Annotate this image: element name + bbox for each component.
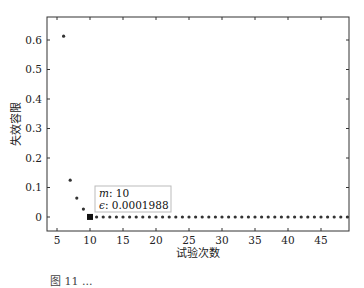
data-point <box>293 215 296 218</box>
x-tick-label: 35 <box>248 234 261 246</box>
data-point <box>273 215 276 218</box>
data-point <box>95 215 98 218</box>
data-point <box>339 215 342 218</box>
data-point <box>121 215 124 218</box>
datatip-eps-value: 0.0001988 <box>112 199 169 211</box>
data-point <box>141 215 144 218</box>
highlighted-point[interactable] <box>87 214 93 220</box>
data-point <box>326 215 329 218</box>
data-point <box>260 215 263 218</box>
y-tick-label: 0.2 <box>25 152 42 164</box>
y-tick-label: 0.1 <box>25 181 42 193</box>
data-point <box>194 215 197 218</box>
data-point <box>181 215 184 218</box>
data-point <box>214 215 217 218</box>
datatip-m-value: 10 <box>116 187 129 199</box>
data-point <box>306 215 309 218</box>
data-point <box>286 215 289 218</box>
data-point <box>267 215 270 218</box>
data-point <box>207 215 210 218</box>
data-point <box>75 197 78 200</box>
data-point <box>247 215 250 218</box>
y-tick-label: 0.3 <box>25 122 42 134</box>
svg-text:m: 10: m: 10 <box>99 187 129 199</box>
data-point <box>161 215 164 218</box>
x-axis-label: 试验次数 <box>176 246 220 260</box>
data-point <box>227 215 230 218</box>
y-tick-label: 0 <box>35 211 42 223</box>
data-point <box>240 215 243 218</box>
x-tick-label: 20 <box>149 234 162 246</box>
data-point <box>333 215 336 218</box>
x-tick-label: 5 <box>54 234 61 246</box>
data-point <box>135 215 138 218</box>
data-point <box>62 35 65 38</box>
data-point <box>115 215 118 218</box>
y-tick-label: 0.6 <box>25 34 42 46</box>
y-axis-label: 失效容限 <box>9 102 23 146</box>
datatip: m: 10 ϵ: 0.0001988 <box>95 186 171 212</box>
data-point <box>253 215 256 218</box>
svg-text:ϵ: 0.0001988: ϵ: 0.0001988 <box>99 199 169 211</box>
data-point <box>69 179 72 182</box>
x-tick-label: 25 <box>182 234 195 246</box>
x-tick-label: 40 <box>281 234 294 246</box>
data-point <box>154 215 157 218</box>
figure-caption: 图 11 ... <box>50 272 350 288</box>
data-point <box>280 215 283 218</box>
x-tick-label: 15 <box>116 234 129 246</box>
x-tick-label: 45 <box>314 234 327 246</box>
data-point <box>346 215 349 218</box>
data-point <box>102 215 105 218</box>
y-tick-label: 0.4 <box>25 93 42 105</box>
plot-area <box>47 17 349 231</box>
data-point <box>234 215 237 218</box>
data-point <box>128 215 131 218</box>
data-point <box>319 215 322 218</box>
data-point <box>108 215 111 218</box>
x-tick-label: 30 <box>215 234 228 246</box>
data-point <box>82 207 85 210</box>
data-point <box>168 215 171 218</box>
data-point <box>174 215 177 218</box>
datatip-m-label: m <box>99 187 109 199</box>
data-point <box>148 215 151 218</box>
data-point <box>220 215 223 218</box>
data-point <box>313 215 316 218</box>
data-point <box>201 215 204 218</box>
data-point <box>300 215 303 218</box>
x-tick-label: 10 <box>83 234 96 246</box>
data-point <box>187 215 190 218</box>
y-tick-label: 0.5 <box>25 63 42 75</box>
